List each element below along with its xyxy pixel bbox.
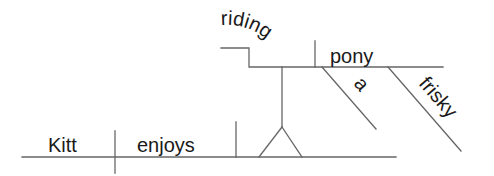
sentence-diagram: Kitt enjoys riding pony a frisky: [0, 0, 494, 176]
word-subject: Kitt: [48, 134, 77, 156]
word-verb: enjoys: [137, 134, 195, 156]
pedestal-left-leg: [259, 127, 282, 157]
word-gerund-object: pony: [330, 45, 373, 67]
word-article: a: [350, 72, 374, 95]
word-gerund: riding: [220, 7, 276, 43]
pedestal-right-leg: [282, 127, 302, 157]
word-adjective: frisky: [415, 72, 462, 122]
word-gerund-path: riding: [220, 7, 276, 43]
